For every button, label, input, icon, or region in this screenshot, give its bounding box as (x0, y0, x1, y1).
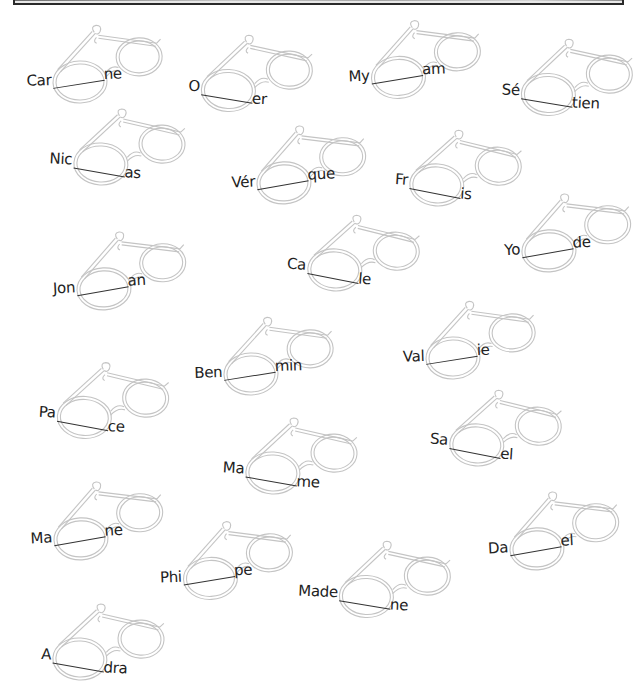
glasses-icon (42, 103, 196, 191)
word-suffix: min (274, 358, 302, 374)
word-completion-item-8: Jon an (43, 226, 197, 314)
word-prefix: Jon (53, 280, 76, 296)
word-completion-item-18: Phi pe (150, 516, 303, 602)
word-suffix: el (560, 533, 574, 549)
word-completion-item-19: Made ne (308, 536, 461, 622)
glasses-icon (338, 15, 491, 101)
glasses-icon (191, 313, 344, 398)
word-prefix: Car (26, 73, 51, 89)
glasses-icon (214, 412, 368, 500)
word-prefix: My (348, 69, 370, 85)
word-prefix: Nic (49, 151, 73, 167)
glasses-icon (150, 516, 303, 602)
word-suffix: as (124, 165, 141, 181)
word-prefix: Val (403, 349, 425, 365)
word-suffix: am (422, 61, 446, 77)
word-suffix: pe (234, 563, 253, 579)
glasses-icon (21, 598, 175, 685)
word-prefix: Ma (222, 460, 244, 476)
word-completion-item-4: Sé tien (490, 34, 635, 120)
glasses-icon (476, 486, 630, 574)
glasses-icon (417, 383, 572, 473)
word-prefix: Pa (38, 405, 56, 421)
word-suffix: is (460, 187, 472, 203)
word-completion-item-5: Nic as (42, 103, 196, 191)
word-prefix: O (188, 79, 200, 94)
word-completion-item-12: Val ie (393, 297, 546, 382)
glasses-icon (20, 21, 173, 106)
word-completion-item-6: Vér que (223, 120, 377, 208)
word-prefix: Made (298, 584, 338, 601)
word-suffix: el (500, 447, 514, 463)
word-prefix: Vér (231, 174, 255, 190)
word-suffix: ce (107, 419, 125, 435)
word-prefix: Yo (504, 242, 521, 258)
word-suffix: que (307, 166, 335, 182)
word-suffix: le (358, 272, 372, 288)
word-completion-item-14: Sa el (417, 383, 572, 473)
word-prefix: Fr (394, 172, 408, 188)
word-prefix: Ca (287, 257, 307, 273)
word-prefix: Ben (194, 365, 223, 381)
word-completion-item-9: Ca le (275, 208, 430, 298)
word-completion-item-20: A dra (21, 598, 175, 685)
word-completion-item-11: Ben min (191, 313, 344, 398)
glasses-icon (275, 208, 430, 298)
word-suffix: me (296, 474, 320, 490)
word-prefix: Ma (30, 530, 52, 546)
word-prefix: Sa (429, 432, 448, 448)
word-completion-item-15: Ma me (214, 412, 368, 500)
worksheet-title-bar (13, 0, 624, 5)
word-suffix: er (252, 92, 267, 108)
glasses-icon (308, 536, 461, 622)
glasses-icon (223, 120, 377, 208)
word-prefix: Sé (501, 82, 520, 98)
word-suffix: de (572, 235, 591, 251)
word-suffix: ne (104, 523, 123, 539)
glasses-icon (170, 30, 323, 116)
word-completion-item-1: Car ne (20, 21, 173, 106)
word-completion-item-10: Yo de (488, 188, 635, 276)
glasses-icon (488, 188, 635, 276)
glasses-icon (25, 356, 180, 445)
word-completion-item-13: Pa ce (25, 356, 180, 445)
word-prefix: Da (488, 540, 509, 556)
glasses-icon (43, 226, 197, 314)
word-suffix: tien (572, 96, 600, 112)
word-completion-item-3: My am (338, 15, 491, 101)
word-completion-item-2: O er (170, 30, 323, 116)
glasses-icon (393, 297, 546, 382)
word-prefix: A (41, 647, 52, 663)
word-suffix: ne (390, 598, 409, 614)
word-suffix: ne (103, 66, 122, 82)
word-suffix: ie (476, 343, 489, 358)
word-suffix: an (127, 273, 146, 289)
word-completion-item-17: Da el (476, 486, 630, 574)
word-suffix: dra (103, 660, 128, 676)
glasses-icon (490, 34, 635, 120)
word-prefix: Phi (160, 570, 182, 586)
